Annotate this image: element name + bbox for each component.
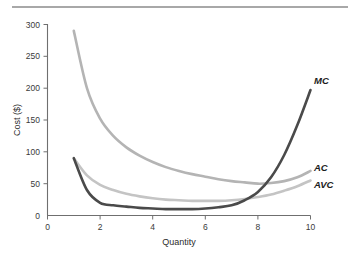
x-tick-label-4: 4 (150, 222, 155, 232)
y-axis-tick-labels: 300 250 200 150 100 50 0 (26, 20, 40, 221)
x-tick-label-10: 10 (306, 222, 316, 232)
figure: 300 250 200 150 100 50 0 0 2 4 6 8 10 Q (0, 0, 351, 256)
y-tick-label-0: 0 (35, 211, 40, 221)
ac-curve-label: AC (313, 162, 328, 173)
x-axis-ticks (48, 216, 311, 220)
y-tick-label-250: 250 (26, 51, 40, 61)
x-tick-label-0: 0 (45, 222, 50, 232)
x-tick-label-6: 6 (203, 222, 208, 232)
x-axis-title: Quantity (162, 237, 196, 247)
y-axis-ticks (44, 25, 48, 184)
mc-curve-label: MC (314, 75, 329, 86)
cost-curves-chart: 300 250 200 150 100 50 0 0 2 4 6 8 10 Q (0, 0, 351, 256)
y-axis-title: Cost ($) (12, 104, 22, 136)
x-tick-label-8: 8 (256, 222, 261, 232)
x-tick-label-2: 2 (98, 222, 103, 232)
y-tick-label-100: 100 (26, 147, 40, 157)
y-tick-label-200: 200 (26, 83, 40, 93)
avc-curve (74, 158, 311, 201)
curve-labels: MC AC AVC (313, 75, 333, 190)
ac-curve (74, 31, 311, 184)
x-axis-tick-labels: 0 2 4 6 8 10 (45, 222, 315, 232)
curves-group (74, 31, 311, 209)
avc-curve-label: AVC (313, 179, 333, 190)
y-tick-label-150: 150 (26, 115, 40, 125)
y-tick-label-50: 50 (31, 179, 41, 189)
mc-curve (74, 90, 311, 209)
y-tick-label-300: 300 (26, 20, 40, 30)
